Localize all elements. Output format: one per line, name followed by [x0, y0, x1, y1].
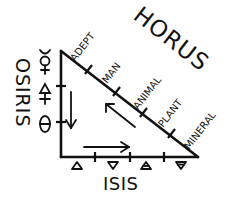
arrow-right-icon: [84, 142, 129, 152]
sulfur-icon: [40, 84, 50, 104]
horus-label: HORUS: [129, 1, 214, 76]
arrow-down-icon: [66, 92, 76, 128]
stage-label-man: MAN: [100, 60, 123, 85]
alchemical-triangle-diagram: HORUS OSIRIS ISIS ADEPT MAN ANIMAL PLANT…: [0, 0, 237, 205]
water-icon: [108, 162, 118, 169]
osiris-label: OSIRIS: [12, 58, 34, 128]
stage-label-adept: ADEPT: [68, 30, 98, 63]
stage-label-animal: ANIMAL: [131, 74, 164, 111]
earth-icon: [176, 162, 186, 169]
fire-icon: [72, 162, 82, 169]
left-side-symbols: [40, 50, 50, 132]
bottom-side-symbols: [72, 162, 186, 169]
air-icon: [141, 162, 151, 169]
salt-icon: [40, 116, 50, 132]
stage-label-mineral: MINERAL: [182, 109, 218, 151]
mercury-icon: [40, 50, 50, 74]
isis-label: ISIS: [103, 173, 138, 194]
arrow-up-left-icon: [106, 104, 135, 127]
stage-label-plant: PLANT: [156, 96, 185, 129]
